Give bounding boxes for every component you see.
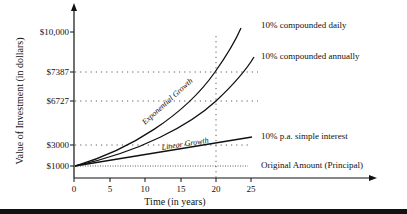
y-tick-3000: $3000 bbox=[47, 140, 70, 150]
x-tick-15: 15 bbox=[177, 184, 187, 194]
y-tick-1000: $1000 bbox=[47, 161, 70, 171]
legend-compounded-daily: 10% compounded daily bbox=[261, 20, 347, 30]
legend-compounded-annually: 10% compounded annually bbox=[261, 51, 360, 61]
x-ticks bbox=[74, 178, 251, 182]
legend-simple-interest: 10% p.a. simple interest bbox=[261, 131, 348, 141]
legend: 10% compounded daily 10% compounded annu… bbox=[261, 20, 363, 170]
x-tick-25: 25 bbox=[247, 184, 257, 194]
x-tick-labels: 0 5 10 15 20 25 bbox=[72, 184, 256, 194]
y-tick-6727: $6727 bbox=[47, 96, 70, 106]
x-tick-0: 0 bbox=[72, 184, 77, 194]
bottom-border-bar bbox=[0, 209, 407, 214]
y-axis-arrow-icon bbox=[71, 3, 77, 11]
x-tick-20: 20 bbox=[212, 184, 222, 194]
x-axis-arrow-icon bbox=[369, 175, 377, 181]
x-axis-title: Time (in years) bbox=[144, 196, 205, 208]
legend-principal: Original Amount (Principal) bbox=[261, 160, 363, 170]
x-tick-10: 10 bbox=[141, 184, 151, 194]
annotation-linear-growth: Linear Growth bbox=[160, 136, 209, 152]
y-tick-7387: $7387 bbox=[47, 67, 70, 77]
investment-growth-chart: $10,000 $7387 $6727 $3000 $1000 0 5 10 1… bbox=[0, 0, 407, 214]
y-axis-title: Value of Investment (in dollars) bbox=[14, 37, 26, 164]
y-tick-10000: $10,000 bbox=[40, 27, 70, 37]
y-tick-labels: $10,000 $7387 $6727 $3000 $1000 bbox=[40, 27, 70, 171]
x-tick-5: 5 bbox=[108, 184, 113, 194]
